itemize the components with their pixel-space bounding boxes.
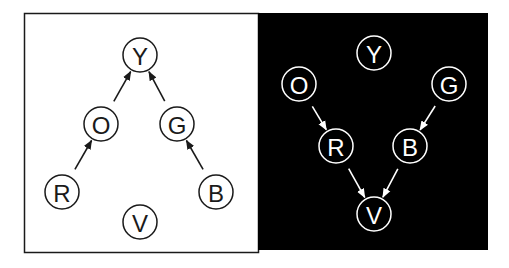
node-label: G [168,112,187,139]
node-R: R [319,129,353,163]
node-Y: Y [123,38,157,72]
node-label: O [92,112,111,139]
node-Y: Y [357,36,391,70]
node-R: R [45,175,79,209]
node-label: O [290,72,309,99]
node-label: V [366,202,382,229]
node-label: B [402,134,418,161]
node-V: V [357,197,391,231]
node-O: O [84,107,118,141]
node-label: Y [132,43,148,70]
node-label: G [440,72,459,99]
node-label: Y [366,41,382,68]
node-G: G [160,107,194,141]
node-label: R [53,180,70,207]
node-label: R [327,134,344,161]
node-B: B [199,175,233,209]
node-V: V [123,205,157,239]
diagram-canvas: YOGRBV YOGRBV [0,0,509,268]
node-O: O [282,67,316,101]
node-label: V [132,210,148,237]
node-B: B [393,129,427,163]
node-G: G [432,67,466,101]
node-label: B [208,180,224,207]
